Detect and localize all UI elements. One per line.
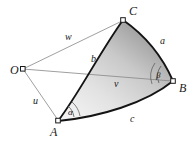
- arc-label-c: c: [130, 114, 134, 124]
- vertex-label-C: C: [129, 5, 137, 17]
- vertex-marker-B: [171, 79, 176, 84]
- vertex-marker-O: [21, 67, 26, 72]
- spherical-triangle-figure: O A B C u v w a b c α β: [0, 0, 196, 142]
- arc-label-a: a: [160, 36, 165, 46]
- angle-label-beta: β: [156, 71, 160, 80]
- vertex-label-O: O: [10, 64, 19, 76]
- radius-label-w: w: [65, 32, 72, 42]
- vertex-label-A: A: [50, 126, 57, 138]
- angle-label-alpha: α: [68, 108, 73, 117]
- vertex-marker-A: [56, 118, 61, 123]
- radius-u-line: [23, 69, 58, 120]
- radius-label-v: v: [114, 79, 118, 89]
- vertex-marker-C: [121, 18, 126, 23]
- vertex-label-B: B: [179, 82, 186, 94]
- radius-label-u: u: [33, 96, 38, 106]
- arc-label-b: b: [91, 54, 96, 64]
- diagram-canvas: [0, 0, 196, 142]
